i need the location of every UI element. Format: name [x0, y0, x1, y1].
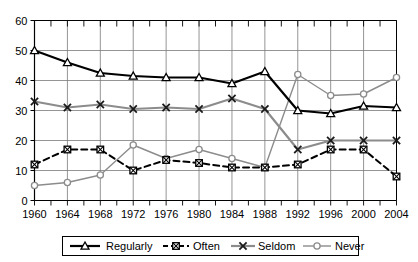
y-axis-tick-label: 50: [15, 45, 27, 57]
x-axis-tick-label: 1992: [286, 208, 310, 220]
legend-label: Seldom: [258, 240, 295, 252]
y-axis-tick-label: 10: [15, 165, 27, 177]
data-point-marker: [130, 142, 136, 148]
series-line: [35, 75, 397, 186]
series-layer: [31, 47, 401, 189]
data-point-marker: [31, 182, 37, 188]
y-axis-tick-label: 0: [21, 195, 27, 207]
data-point-marker: [360, 91, 366, 97]
data-point-marker: [229, 155, 235, 161]
x-axis-tick-label: 1964: [55, 208, 79, 220]
x-axis-tick-label: 1972: [121, 208, 145, 220]
x-axis-tick-label: 1984: [220, 208, 244, 220]
x-axis-tick-label: 1968: [88, 208, 112, 220]
data-point-marker: [328, 92, 334, 98]
series-never: [31, 71, 399, 188]
series-often: [31, 146, 400, 180]
x-axis-tick-label: 1976: [154, 208, 178, 220]
x-axis-tick-label: 1960: [22, 208, 46, 220]
legend-label: Never: [335, 240, 365, 252]
y-axis-tick-label: 20: [15, 135, 27, 147]
y-axis-tick-label: 30: [15, 105, 27, 117]
data-point-marker: [97, 172, 103, 178]
x-axis-tick-label: 1996: [318, 208, 342, 220]
y-axis-labels: 0102030405060: [15, 15, 27, 207]
data-point-marker: [393, 74, 399, 80]
legend-label: Often: [193, 240, 220, 252]
y-axis-tick-label: 40: [15, 75, 27, 87]
line-chart: 0102030405060 19601964196819721976198019…: [0, 0, 418, 262]
chart-container: 0102030405060 19601964196819721976198019…: [0, 0, 418, 262]
x-axis-tick-label: 2000: [351, 208, 375, 220]
data-point-marker: [196, 146, 202, 152]
x-axis-labels: 1960196419681972197619801984198819921996…: [22, 208, 408, 220]
chart-legend: RegularlyOftenSeldomNever: [63, 237, 365, 256]
data-point-marker: [261, 68, 269, 75]
x-axis-tick-label: 1988: [253, 208, 277, 220]
data-point-marker: [314, 243, 320, 249]
data-point-marker: [295, 71, 301, 77]
series-line: [35, 99, 397, 150]
series-seldom: [31, 95, 400, 153]
legend-label: Regularly: [106, 240, 153, 252]
y-axis-tick-label: 60: [15, 15, 27, 27]
data-point-marker: [64, 179, 70, 185]
x-axis-tick-label: 1980: [187, 208, 211, 220]
x-axis-tick-label: 2004: [384, 208, 408, 220]
